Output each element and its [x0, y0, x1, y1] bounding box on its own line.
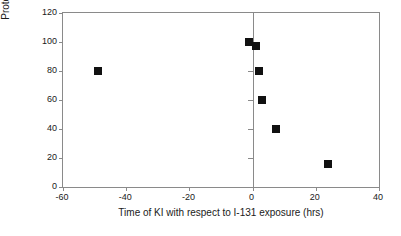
- y-axis-tick-label: 20: [47, 152, 57, 162]
- y-axis-tick-label: 100: [42, 36, 57, 46]
- plot-area: [62, 12, 380, 188]
- data-point-marker: [94, 67, 102, 75]
- y-axis-tick: [59, 71, 63, 72]
- y-axis-tick-label: 80: [47, 65, 57, 75]
- x-axis-tick: [379, 187, 380, 191]
- y-axis-tick: [59, 100, 63, 101]
- data-point-marker: [272, 125, 280, 133]
- y-axis-tick: [59, 13, 63, 14]
- y-axis-tick: [59, 158, 63, 159]
- y-axis-tick: [59, 129, 63, 130]
- x-axis-tick-labels: -60-40-2002040: [62, 192, 380, 206]
- zero-line-tick: [248, 100, 253, 101]
- y-axis-tick-label: 120: [42, 7, 57, 17]
- x-axis-tick: [316, 187, 317, 191]
- x-axis-tick-label: -20: [182, 192, 195, 202]
- x-axis-tick-label: 0: [249, 192, 254, 202]
- y-axis-tick-label: 40: [47, 123, 57, 133]
- zero-line-tick: [248, 158, 253, 159]
- x-axis-tick-label: -60: [55, 192, 68, 202]
- zero-line-tick: [248, 129, 253, 130]
- data-point-marker: [255, 67, 263, 75]
- x-axis-tick-label: -40: [119, 192, 132, 202]
- chart-figure: 020406080100120 -60-40-2002040 Time of K…: [0, 0, 401, 236]
- y-axis-tick: [59, 42, 63, 43]
- data-point-marker: [258, 96, 266, 104]
- data-point-marker: [324, 160, 332, 168]
- x-axis-title: Time of KI with respect to I-131 exposur…: [62, 207, 380, 218]
- y-axis-tick-labels: 020406080100120: [30, 12, 57, 188]
- y-axis-tick-label: 0: [52, 181, 57, 191]
- x-axis-tick-label: 20: [310, 192, 320, 202]
- x-axis-tick: [63, 187, 64, 191]
- y-axis-title: Protection afforded (% control): [0, 0, 14, 40]
- data-point-marker: [252, 42, 260, 50]
- x-axis-tick: [189, 187, 190, 191]
- x-axis-tick: [126, 187, 127, 191]
- zero-line-tick: [248, 71, 253, 72]
- y-axis-tick-label: 60: [47, 94, 57, 104]
- x-axis-tick: [253, 187, 254, 191]
- x-axis-tick-label: 40: [373, 192, 383, 202]
